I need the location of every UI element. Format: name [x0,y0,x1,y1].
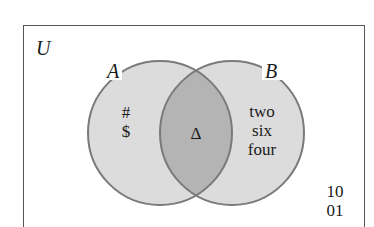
universe-label: U [36,38,50,58]
element-10: 10 [322,182,348,201]
element-four: four [232,140,292,159]
set-b-label: B [265,61,277,81]
set-a-only-elements: # $ [116,103,136,141]
element-two: two [232,102,292,121]
venn-diagram: U A B # $ Δ two six four 10 01 [0,0,374,227]
element-01: 01 [322,201,348,220]
element-delta: Δ [186,124,206,143]
set-a-label: A [107,61,119,81]
element-six: six [232,121,292,140]
intersection-elements: Δ [186,124,206,143]
element-dollar: $ [116,122,136,141]
outside-elements: 10 01 [322,182,348,220]
set-b-only-elements: two six four [232,102,292,159]
element-hash: # [116,103,136,122]
venn-circles [0,0,374,227]
